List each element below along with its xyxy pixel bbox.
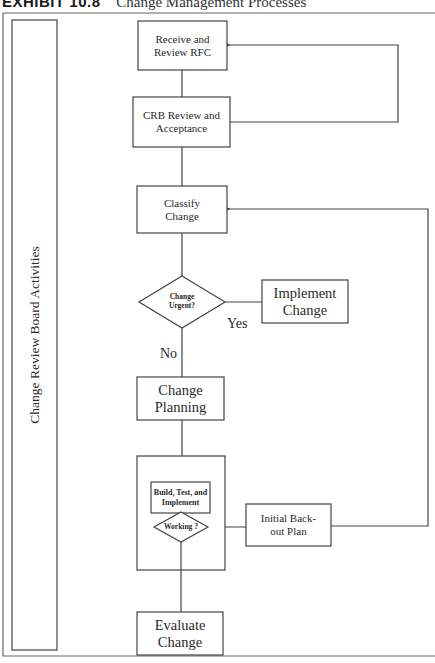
- backout-label: Initial Back-out Plan: [258, 504, 319, 546]
- urgent-decision-label: Change Urgent?: [158, 289, 206, 315]
- build-inner-label: Build, Test, and Implement: [151, 482, 210, 513]
- implement-label: Implement Change: [262, 280, 348, 323]
- edge-label-yes: Yes: [227, 316, 247, 332]
- evaluate-label: Evaluate Change: [137, 612, 223, 655]
- edge-backout-loop-to-classify: [229, 209, 428, 526]
- classify-label: Classify Change: [152, 186, 212, 233]
- receive-rfc-label: Receive and Review RFC: [138, 21, 227, 70]
- crb-review-label: CRB Review and Acceptance: [143, 97, 220, 147]
- edge-crb-loop-to-receive: [229, 45, 398, 122]
- edge-label-no: No: [160, 346, 177, 362]
- planning-label: Change Planning: [140, 377, 221, 420]
- swimlane-label: Change Review Board Activities: [12, 20, 57, 650]
- working-decision-label: Working ?: [163, 515, 199, 539]
